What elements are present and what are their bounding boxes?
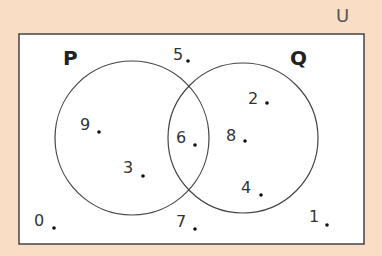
svg-text:0: 0 <box>34 211 44 230</box>
set-q-label: Q <box>290 46 307 70</box>
svg-text:2: 2 <box>248 89 258 108</box>
svg-text:4: 4 <box>241 178 251 197</box>
svg-text:8: 8 <box>226 126 236 145</box>
svg-text:7: 7 <box>176 212 186 231</box>
svg-text:9: 9 <box>80 115 90 134</box>
set-p-label: P <box>63 46 78 70</box>
svg-text:6: 6 <box>176 128 186 147</box>
venn-diagram: U P Q 5 9 6 3 2 8 4 0 7 1 <box>0 0 382 256</box>
svg-text:5: 5 <box>173 45 183 64</box>
svg-text:1: 1 <box>309 207 319 226</box>
universal-set-label: U <box>336 5 349 26</box>
svg-text:3: 3 <box>123 158 133 177</box>
